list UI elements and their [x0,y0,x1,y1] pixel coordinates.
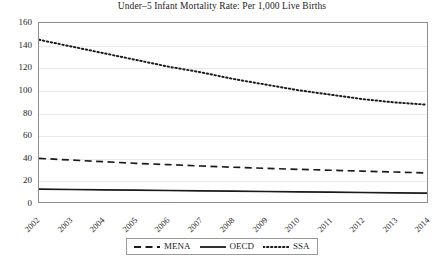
y-axis-tick-label: 160 [19,17,33,27]
chart-container: Under–5 Infant Mortality Rate: Per 1,000… [0,0,444,265]
legend-item-oecd: OECD [200,242,255,251]
x-axis-tick-label: 2002 [22,215,41,234]
series-line-oecd [39,189,427,193]
y-axis-tick-label: 140 [19,40,33,50]
y-axis-tick-label: 100 [19,85,33,95]
x-axis-tick-label: 2009 [250,215,269,234]
legend-item-ssa: SSA [263,242,310,251]
x-axis-tick-label: 2014 [412,215,431,234]
x-axis: 2002200320042005200620072008200920102011… [38,204,428,238]
x-axis-tick-label: 2012 [347,215,366,234]
chart-legend: MENAOECDSSA [126,238,318,255]
y-axis-tick-label: 60 [23,130,32,140]
series-layer [39,23,427,202]
y-axis-tick-label: 0 [28,198,33,208]
x-axis-tick-label: 2003 [55,215,74,234]
legend-label: SSA [293,242,310,251]
y-axis: 020406080100120140160 [0,22,36,203]
series-line-ssa [39,40,427,105]
dotted-line-key [263,243,289,251]
x-axis-tick-label: 2007 [185,215,204,234]
y-axis-tick-label: 40 [23,153,32,163]
x-axis-tick-label: 2013 [380,215,399,234]
x-axis-tick-label: 2004 [87,215,106,234]
y-axis-tick-label: 120 [19,62,33,72]
y-axis-tick-label: 80 [23,108,32,118]
series-line-mena [39,158,427,173]
x-axis-tick-label: 2006 [152,215,171,234]
dashed-line-key [134,243,160,251]
x-axis-tick-label: 2008 [217,215,236,234]
y-axis-tick-label: 20 [23,175,32,185]
plot-area [38,22,428,203]
legend-label: MENA [164,242,191,251]
x-axis-tick-label: 2010 [282,215,301,234]
legend-label: OECD [230,242,255,251]
legend-item-mena: MENA [134,242,191,251]
x-axis-tick-label: 2011 [315,215,334,234]
solid-line-key [200,243,226,251]
x-axis-tick-label: 2005 [120,215,139,234]
chart-title: Under–5 Infant Mortality Rate: Per 1,000… [0,1,444,11]
